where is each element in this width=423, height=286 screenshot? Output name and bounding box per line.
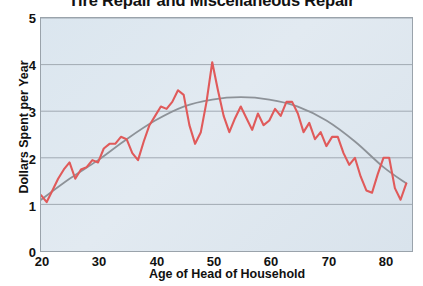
x-axis-label: Age of Head of Household	[40, 267, 414, 281]
chart-figure: Tire Repair and Miscellaneous Repair Dol…	[0, 0, 423, 286]
gridlines	[41, 18, 412, 204]
y-tick-5: 5	[10, 12, 36, 25]
y-axis-tick-labels: 5 4 3 2 1 0	[6, 0, 36, 286]
plot-area	[40, 17, 413, 252]
y-tick-1: 1	[10, 200, 36, 213]
y-tick-3: 3	[10, 106, 36, 119]
plot-svg	[41, 18, 412, 251]
chart-title: Tire Repair and Miscellaneous Repair	[0, 0, 423, 10]
y-tick-4: 4	[10, 59, 36, 72]
data-series-line	[41, 62, 406, 202]
y-tick-2: 2	[10, 153, 36, 166]
